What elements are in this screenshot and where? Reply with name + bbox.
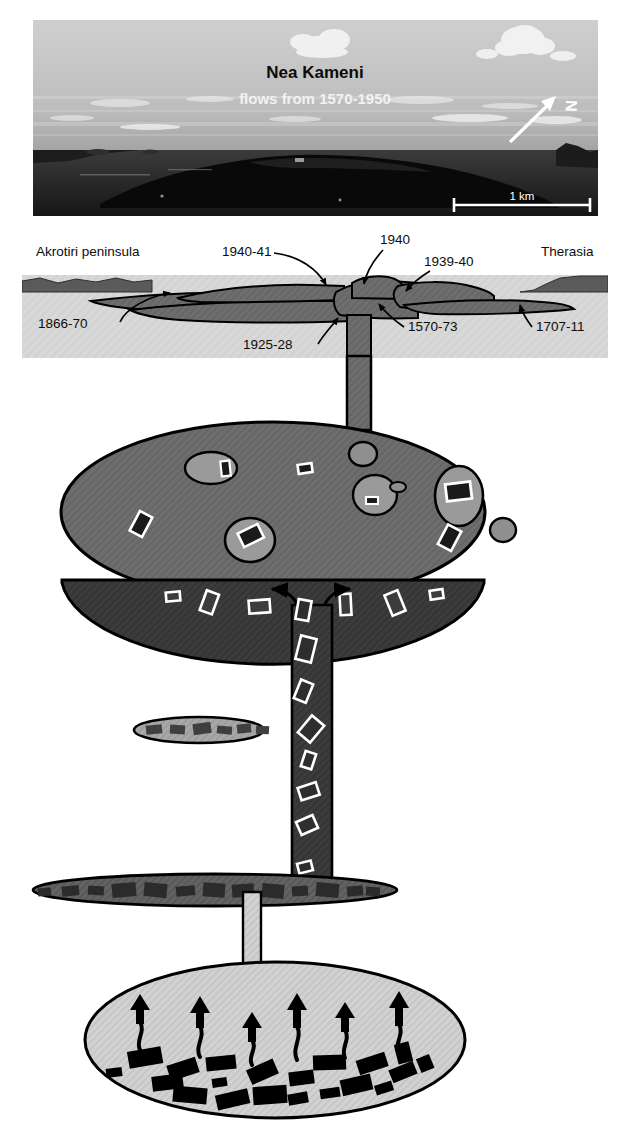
- north-label: N: [563, 100, 580, 112]
- photo-subtitle: flows from 1570-1950: [239, 90, 391, 107]
- enclave-blob: [435, 466, 483, 526]
- upper-chamber-body: [61, 422, 485, 602]
- crystal: [111, 882, 136, 898]
- mid-sill-lens-small: [134, 717, 269, 743]
- crystal: [292, 885, 309, 896]
- crystal: [249, 599, 271, 613]
- lower-conduit: [243, 892, 261, 968]
- crystal: [261, 883, 284, 899]
- crystal: [298, 463, 313, 474]
- crystal: [237, 723, 252, 733]
- crystal: [315, 882, 339, 898]
- enclave-blob-small: [390, 482, 406, 492]
- upper-magma-chamber: [61, 422, 516, 664]
- crystal: [143, 882, 167, 898]
- crystal: [256, 726, 269, 735]
- label-1570-73: 1570-73: [408, 319, 458, 334]
- label-1940: 1940: [380, 232, 410, 247]
- crystal: [297, 860, 313, 873]
- upper-chamber-basal-band: [62, 580, 484, 664]
- label-1707-11: 1707-11: [536, 319, 585, 334]
- photo-panel: N 1 km Nea Kameni flows from 1570-1950: [33, 20, 598, 216]
- crystal: [313, 1054, 347, 1070]
- label-akrotiri-peninsula: Akrotiri peninsula: [36, 244, 140, 259]
- diagram-canvas: N 1 km Nea Kameni flows from 1570-1950: [0, 0, 630, 1130]
- crystal: [88, 885, 105, 895]
- crystal: [170, 725, 186, 735]
- enclave-blob: [185, 452, 237, 484]
- crystal: [38, 888, 52, 897]
- enclave-blob: [353, 475, 397, 515]
- flow-1707-11: [404, 300, 574, 314]
- scale-bar-label: 1 km: [510, 190, 535, 202]
- crystal: [166, 591, 181, 601]
- summit-conduit: [347, 315, 371, 360]
- enclave-blob: [225, 518, 275, 562]
- upper-conduit: [347, 356, 371, 430]
- crystal: [339, 594, 351, 616]
- crystal: [347, 885, 364, 896]
- crystal: [252, 1085, 287, 1105]
- crystal: [176, 885, 196, 897]
- crystal: [62, 885, 80, 897]
- label-therasia: Therasia: [541, 244, 594, 259]
- mid-sill-lens-large: [33, 874, 397, 906]
- crystal: [430, 589, 444, 600]
- cross-section-panel: Akrotiri peninsula Therasia 1940-41 1940…: [22, 232, 608, 360]
- figure-root: N 1 km Nea Kameni flows from 1570-1950: [0, 0, 630, 1130]
- crystal: [217, 725, 233, 734]
- crystal: [203, 882, 226, 898]
- photo-title: Nea Kameni: [266, 63, 363, 82]
- crystal: [366, 887, 381, 897]
- crystal: [172, 1086, 207, 1105]
- enclave-blob: [349, 442, 377, 466]
- lower-magma-chamber: [85, 962, 465, 1118]
- enclave-blob: [490, 518, 516, 542]
- label-1925-28: 1925-28: [243, 337, 293, 352]
- crystal: [146, 724, 163, 735]
- crystal: [295, 599, 311, 621]
- label-1866-70: 1866-70: [38, 316, 88, 331]
- label-1940-41: 1940-41: [222, 244, 272, 259]
- label-1939-40: 1939-40: [424, 254, 474, 269]
